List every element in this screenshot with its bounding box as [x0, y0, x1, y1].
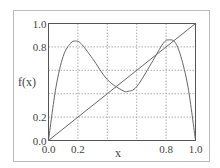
curve-fx — [49, 40, 196, 141]
y-tick-label: 0.8 — [33, 41, 47, 53]
x-tick-label: 0.2 — [71, 143, 85, 155]
x-tick-label: 0.8 — [159, 143, 173, 155]
y-tick-label: 0.0 — [33, 135, 47, 147]
y-tick-label: 0.2 — [33, 111, 47, 123]
x-tick-label: 1.0 — [189, 143, 203, 155]
y-axis-label: f(x) — [18, 75, 36, 89]
y-tick-label: 1.0 — [33, 18, 47, 30]
chart: 0.00.20.81.00.00.20.81.0 x f(x) — [0, 0, 220, 168]
series-group — [49, 24, 196, 141]
line-identity — [49, 24, 196, 141]
x-axis-label: x — [115, 146, 121, 160]
